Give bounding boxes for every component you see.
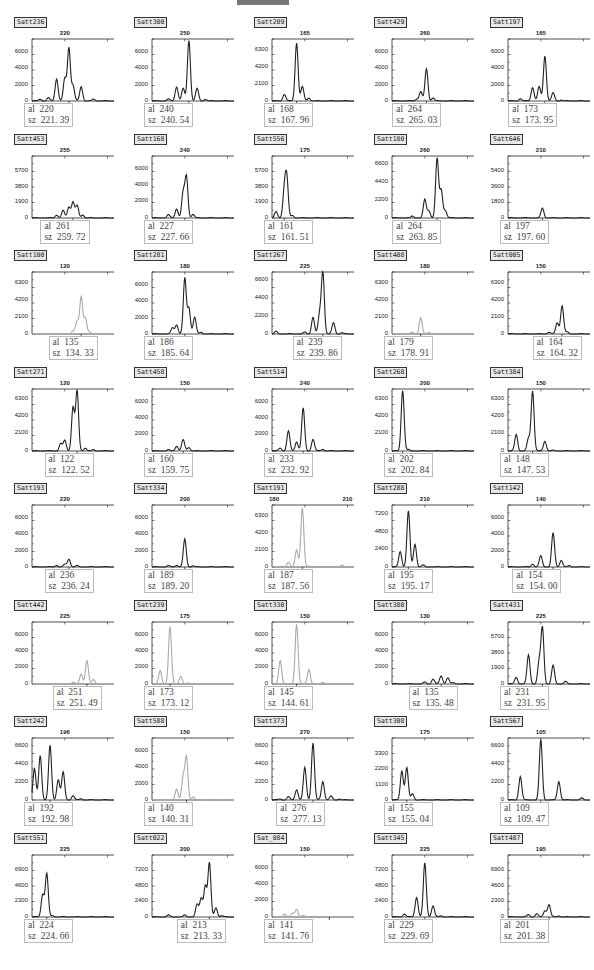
y-axis-tick: 3800	[2, 183, 28, 189]
top-axis-tick: 240	[180, 147, 190, 153]
size-label: sz 189. 20	[148, 581, 189, 592]
top-axis-tick: 120	[60, 263, 70, 269]
y-axis-tick: 2400	[362, 897, 388, 903]
y-axis-tick: 6600	[478, 742, 504, 748]
y-axis-tick: 4400	[242, 294, 268, 300]
allele-callout: al 195sz 195. 17	[384, 569, 433, 593]
marker-panel: Satt2882100240048007200al 195sz 195. 17	[362, 483, 480, 601]
allele-callout: al 229sz 229. 69	[384, 919, 433, 943]
trace-plot	[392, 738, 474, 800]
size-label: sz 197. 60	[504, 232, 545, 243]
top-axis-tick: 200	[420, 380, 430, 386]
y-axis-tick: 2000	[122, 197, 148, 203]
allele-label: al 173	[148, 687, 189, 698]
size-label: sz 221. 39	[28, 115, 69, 126]
allele-callout: al 148sz 147. 53	[500, 453, 549, 477]
y-axis-tick: 6300	[2, 395, 28, 401]
trace-plot	[508, 855, 590, 917]
allele-label: al 109	[504, 803, 545, 814]
allele-label: al 195	[388, 570, 429, 581]
y-axis-tick: 1900	[2, 198, 28, 204]
marker-panel: Satt4871950230046006900al 201sz 201. 38	[478, 833, 594, 951]
marker-panel: Satt3452250240048007200al 229sz 229. 69	[362, 833, 480, 951]
trace-plot	[272, 855, 354, 917]
y-axis-tick: 6600	[242, 742, 268, 748]
y-axis-tick: 2000	[242, 430, 268, 436]
y-axis-tick: 2100	[478, 313, 504, 319]
marker-label: Satt271	[14, 367, 47, 378]
marker-label: Satt236	[14, 17, 47, 28]
allele-label: al 220	[28, 104, 69, 115]
allele-label: al 135	[53, 337, 94, 348]
allele-label: al 236	[49, 570, 90, 581]
y-axis-tick: 2100	[242, 80, 268, 86]
marker-label: Satt514	[254, 367, 287, 378]
trace-plot	[392, 389, 474, 451]
size-label: sz 251. 49	[57, 698, 98, 709]
size-label: sz 144. 61	[268, 698, 309, 709]
size-label: sz 161. 51	[268, 232, 309, 243]
top-axis-tick: 175	[180, 613, 190, 619]
y-axis-tick: 7200	[122, 866, 148, 872]
y-axis-tick: 6000	[122, 398, 148, 404]
top-axis-tick: 140	[536, 496, 546, 502]
y-axis-tick: 4800	[362, 882, 388, 888]
allele-callout: al 220sz 221. 39	[24, 103, 73, 127]
trace-plot	[392, 505, 474, 567]
y-axis-tick: 6000	[122, 514, 148, 520]
top-axis-tick: 150	[180, 729, 190, 735]
y-axis-tick: 5700	[2, 167, 28, 173]
y-axis-tick: 2000	[122, 81, 148, 87]
y-axis-tick: 6600	[362, 160, 388, 166]
y-axis-tick: 0	[2, 680, 28, 686]
y-axis-tick: 7200	[362, 866, 388, 872]
marker-panel: Satt5142400200040006000al 233sz 232. 92	[242, 367, 360, 485]
y-axis-tick: 4000	[242, 647, 268, 653]
trace-plot	[152, 39, 234, 101]
allele-callout: al 240sz 240. 54	[144, 103, 193, 127]
marker-label: Satt242	[14, 716, 47, 727]
size-label: sz 224. 66	[28, 931, 69, 942]
y-axis-tick: 6300	[478, 279, 504, 285]
marker-label: Satt431	[490, 600, 523, 611]
top-axis-tick: 180	[269, 496, 279, 502]
size-label: sz 263. 85	[396, 232, 437, 243]
trace-plot	[32, 272, 114, 334]
size-label: sz 167. 96	[268, 115, 309, 126]
y-axis-tick: 3800	[242, 183, 268, 189]
y-axis-tick: 4200	[2, 412, 28, 418]
size-label: sz 239. 86	[297, 348, 338, 359]
y-axis-tick: 6000	[478, 48, 504, 54]
marker-panel: Satt2811800200040006000al 186sz 185. 64	[122, 250, 240, 368]
marker-label: Satt197	[490, 17, 523, 28]
y-axis-tick: 6300	[362, 279, 388, 285]
top-axis-tick: 210	[536, 147, 546, 153]
size-label: sz 185. 64	[148, 348, 189, 359]
size-label: sz 236. 24	[49, 581, 90, 592]
y-axis-tick: 6000	[478, 514, 504, 520]
trace-plot	[392, 156, 474, 218]
top-axis-tick: 250	[180, 30, 190, 36]
marker-panel: Satt5512250230046006900al 224sz 224. 66	[2, 833, 120, 951]
marker-panel: Satt3301500200040006000al 145sz 144. 61	[242, 600, 360, 718]
size-label: sz 202. 84	[388, 465, 429, 476]
y-axis-tick: 4000	[122, 763, 148, 769]
marker-label: Satt556	[254, 134, 287, 145]
allele-label: al 122	[49, 454, 90, 465]
allele-label: al 179	[388, 337, 429, 348]
marker-label: Satt646	[490, 134, 523, 145]
allele-callout: al 236sz 236. 24	[45, 569, 94, 593]
marker-label: Satt191	[254, 483, 287, 494]
allele-label: al 164	[537, 337, 578, 348]
y-axis-tick: 2000	[122, 314, 148, 320]
top-axis-tick: 210	[420, 496, 430, 502]
y-axis-tick: 6300	[242, 46, 268, 52]
allele-callout: al 261sz 259. 72	[40, 220, 89, 244]
marker-panel: Satt3081750110022003300al 155sz 155. 04	[362, 716, 480, 834]
marker-label: Satt022	[134, 833, 167, 844]
trace-plot	[32, 156, 114, 218]
y-axis-tick: 2300	[478, 897, 504, 903]
trace-plot	[392, 622, 474, 684]
marker-panel: Satt1802600220044006600al 264sz 263. 85	[362, 134, 480, 252]
trace-plot	[272, 39, 354, 101]
